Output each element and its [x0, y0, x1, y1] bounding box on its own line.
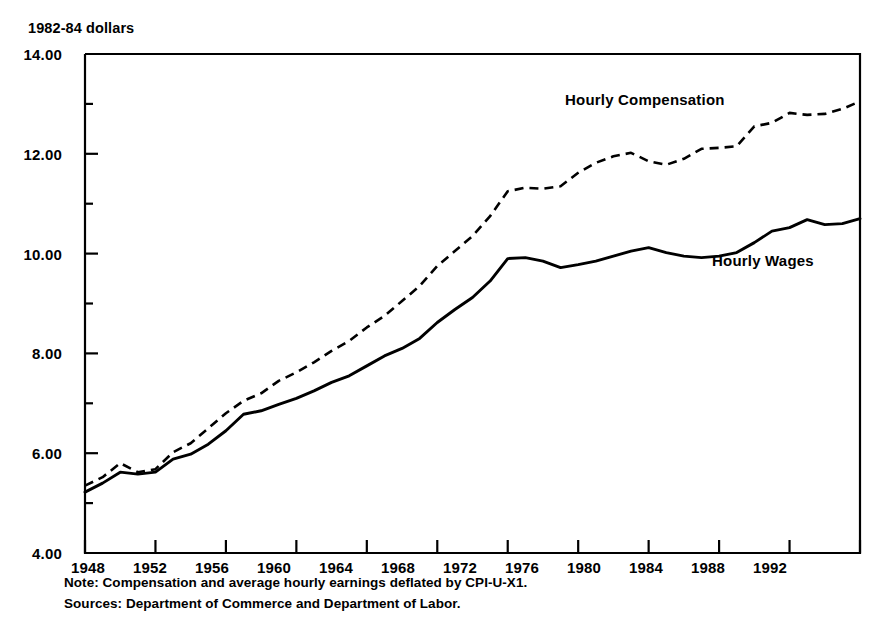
y-axis-ticks	[85, 104, 98, 503]
x-tick-label-1960: 1960	[244, 559, 304, 576]
plot-frame	[85, 54, 860, 553]
y-tick-label-8: 8.00	[0, 345, 62, 362]
chart-note: Note: Compensation and average hourly ea…	[64, 575, 527, 590]
series-label-hourly-wages: Hourly Wages	[712, 252, 814, 269]
x-tick-label-1952: 1952	[120, 559, 180, 576]
x-tick-label-1988: 1988	[678, 559, 738, 576]
x-tick-label-1968: 1968	[368, 559, 428, 576]
x-tick-label-1948: 1948	[58, 559, 118, 576]
chart-figure: 1982-84 dollars 14.00 12.00 10.00 8.00 6…	[0, 0, 882, 631]
x-axis-ticks	[85, 540, 860, 553]
y-tick-label-12: 12.00	[0, 146, 62, 163]
chart-sources: Sources: Department of Commerce and Depa…	[64, 596, 461, 611]
y-tick-label-6: 6.00	[0, 445, 62, 462]
axis-frame	[85, 54, 860, 553]
y-axis-unit-label: 1982-84 dollars	[28, 20, 134, 36]
x-tick-label-1976: 1976	[492, 559, 552, 576]
x-tick-label-1984: 1984	[616, 559, 676, 576]
plot-area	[0, 0, 882, 631]
y-tick-label-10: 10.00	[0, 246, 62, 263]
series-label-hourly-compensation: Hourly Compensation	[565, 91, 725, 108]
x-tick-label-1972: 1972	[430, 559, 490, 576]
series-line-hourly-compensation	[85, 101, 860, 485]
x-tick-label-1956: 1956	[182, 559, 242, 576]
x-tick-label-1992: 1992	[740, 559, 800, 576]
y-tick-label-4: 4.00	[0, 545, 62, 562]
y-tick-label-14: 14.00	[0, 46, 62, 63]
x-tick-label-1964: 1964	[306, 559, 366, 576]
x-tick-label-1980: 1980	[554, 559, 614, 576]
